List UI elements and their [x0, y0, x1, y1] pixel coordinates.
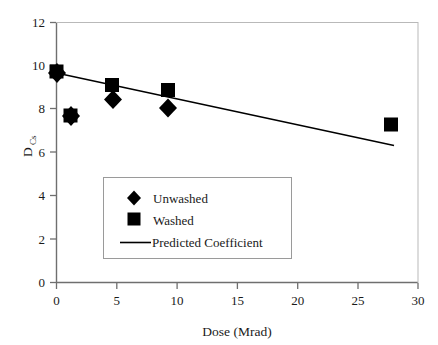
data-point-unwashed-2: [104, 90, 122, 109]
y-axis-title-subscript: Cs: [28, 135, 38, 145]
legend-label-predicted-coefficient: Predicted Coefficient: [152, 235, 263, 250]
legend-square-icon: [128, 213, 141, 226]
y-tick-label-6: 6: [39, 145, 46, 160]
legend-label-unwashed: Unwashed: [153, 191, 208, 206]
y-tick-label-10: 10: [32, 58, 45, 73]
chart-legend: Unwashed Washed Predicted Coefficient: [104, 178, 292, 259]
x-axis-tick-labels: 0 5 10 15 20 25 30: [53, 293, 424, 308]
x-tick-label-0: 0: [53, 293, 60, 308]
y-axis-ticks: [50, 23, 56, 283]
x-axis-title: Dose (Mrad): [202, 324, 271, 339]
y-tick-label-8: 8: [39, 101, 46, 116]
legend-label-washed: Washed: [153, 213, 194, 228]
x-tick-label-15: 15: [231, 293, 244, 308]
y-tick-label-2: 2: [39, 232, 46, 247]
x-tick-label-5: 5: [114, 293, 121, 308]
x-axis-ticks: [57, 283, 419, 289]
series-washed-markers: [50, 65, 399, 132]
data-point-washed-4: [384, 118, 398, 132]
y-tick-label-0: 0: [39, 275, 46, 290]
y-axis-title-main: D: [20, 147, 35, 157]
dose-vs-dcs-scatter-chart: 0 2 4 6 8 10 12 0 5 10 15 20 25 30: [0, 0, 438, 345]
data-point-washed-3: [161, 83, 175, 97]
chart-figure: 0 2 4 6 8 10 12 0 5 10 15 20 25 30: [0, 0, 438, 345]
x-tick-label-25: 25: [352, 293, 365, 308]
x-tick-label-10: 10: [171, 293, 184, 308]
data-point-unwashed-3: [159, 99, 177, 118]
x-tick-label-30: 30: [412, 293, 425, 308]
data-point-washed-2: [105, 78, 119, 92]
y-tick-label-4: 4: [39, 188, 46, 203]
x-tick-label-20: 20: [291, 293, 304, 308]
y-tick-label-12: 12: [32, 15, 45, 30]
y-axis-title: D Cs: [20, 135, 38, 157]
